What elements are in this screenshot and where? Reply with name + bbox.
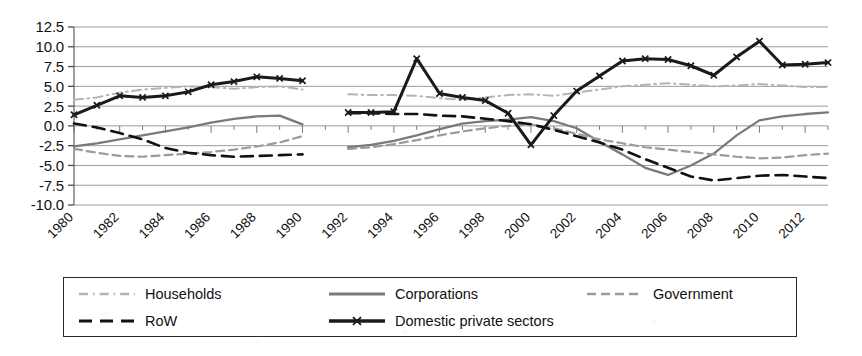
svg-text:-7.5: -7.5	[39, 177, 64, 194]
line-chart-svg: -10.0-7.5-5.0-2.50.02.55.07.510.012.5 19…	[0, 0, 862, 268]
legend-label-government: Government	[653, 286, 733, 302]
svg-text:1984: 1984	[136, 209, 168, 241]
legend-swatch-domestic-private-sectors	[328, 314, 386, 328]
data-series-group	[71, 38, 831, 180]
svg-text:-2.5: -2.5	[39, 137, 64, 154]
svg-text:1992: 1992	[318, 210, 350, 242]
legend-label-corporations: Corporations	[395, 286, 478, 302]
legend-item-row: RoW	[78, 313, 328, 329]
svg-text:1986: 1986	[181, 210, 213, 242]
legend-swatch-households	[78, 287, 136, 301]
chart-figure: -10.0-7.5-5.0-2.50.02.55.07.510.012.5 19…	[0, 0, 862, 356]
svg-text:7.5: 7.5	[44, 58, 64, 75]
legend-swatch-government	[586, 287, 644, 301]
x-axis-tick-labels: 1980198219841986198819901992199419961998…	[44, 209, 807, 241]
svg-text:2002: 2002	[547, 210, 579, 242]
svg-text:12.5: 12.5	[36, 18, 64, 35]
svg-text:1996: 1996	[410, 210, 442, 242]
svg-text:1982: 1982	[90, 210, 122, 242]
svg-text:1990: 1990	[273, 210, 305, 242]
svg-text:1998: 1998	[456, 210, 488, 242]
legend-swatch-corporations	[328, 287, 386, 301]
svg-text:2010: 2010	[730, 210, 762, 242]
svg-text:2000: 2000	[501, 210, 533, 242]
legend-item-corporations: Corporations	[328, 286, 586, 302]
svg-text:2004: 2004	[593, 209, 625, 241]
legend-item-domestic-private-sectors: Domestic private sectors	[328, 313, 586, 329]
svg-text:0.0: 0.0	[44, 117, 64, 134]
legend-label-households: Households	[145, 286, 222, 302]
chart-legend: Households Corporations Government RoW	[63, 277, 797, 337]
legend-label-row: RoW	[145, 313, 177, 329]
svg-text:1980: 1980	[44, 210, 76, 242]
svg-text:10.0: 10.0	[36, 38, 64, 55]
y-axis-tick-labels: -10.0-7.5-5.0-2.50.02.55.07.510.012.5	[31, 18, 64, 213]
legend-label-domestic-private-sectors: Domestic private sectors	[395, 313, 554, 329]
svg-text:1994: 1994	[364, 209, 396, 241]
svg-text:-5.0: -5.0	[39, 157, 64, 174]
legend-swatch-row	[78, 314, 136, 328]
svg-text:1988: 1988	[227, 210, 259, 242]
svg-text:2008: 2008	[684, 210, 716, 242]
svg-text:2006: 2006	[638, 210, 670, 242]
legend-item-households: Households	[78, 286, 328, 302]
svg-text:2012: 2012	[775, 210, 807, 242]
svg-text:5.0: 5.0	[44, 78, 64, 95]
svg-text:2.5: 2.5	[44, 98, 64, 115]
legend-item-government: Government	[586, 286, 796, 302]
svg-text:-10.0: -10.0	[31, 196, 64, 213]
plot-area: -10.0-7.5-5.0-2.50.02.55.07.510.012.5 19…	[0, 0, 862, 268]
